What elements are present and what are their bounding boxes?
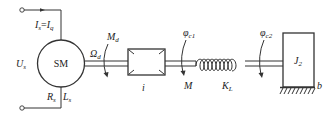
output-shaft bbox=[165, 61, 196, 66]
resistance-label: Rs bbox=[46, 91, 56, 104]
motor-label: SM bbox=[54, 58, 69, 69]
top-terminal bbox=[20, 8, 24, 12]
motor-speed-label: Ωd bbox=[90, 48, 101, 61]
load-inertia: J2 bbox=[283, 33, 314, 87]
inertia-label: J2 bbox=[294, 55, 302, 68]
stiffness-label: KL bbox=[221, 80, 233, 93]
damping-label: b bbox=[317, 80, 322, 91]
ground-hatching bbox=[280, 88, 315, 95]
current-label: Is=Iq bbox=[34, 19, 54, 32]
angle2-arrow-icon bbox=[260, 40, 264, 75]
motor-torque-label: Md bbox=[106, 31, 119, 44]
gearbox-box bbox=[128, 49, 165, 75]
angle1-label: φc1 bbox=[183, 27, 195, 40]
gearbox bbox=[128, 49, 165, 75]
voltage-label: Us bbox=[16, 58, 26, 71]
angle2-label: φc2 bbox=[260, 27, 273, 40]
current-arrow-icon bbox=[40, 8, 45, 11]
synchronous-motor: SM bbox=[38, 40, 85, 87]
output-torque-label: M bbox=[183, 80, 193, 91]
gear-ratio-label: i bbox=[142, 82, 145, 93]
motor-shaft bbox=[85, 61, 129, 66]
spring-icon bbox=[196, 59, 236, 71]
torque-arrow-icon bbox=[104, 44, 108, 75]
angle1-arrow-icon bbox=[182, 40, 186, 73]
bottom-terminal bbox=[20, 106, 24, 110]
drive-system-diagram: Is=Iq Us Rs Ls SM Ωd Md i φc1 M KL bbox=[0, 0, 336, 117]
load-shaft bbox=[245, 61, 283, 66]
inductance-label: Ls bbox=[62, 91, 72, 104]
